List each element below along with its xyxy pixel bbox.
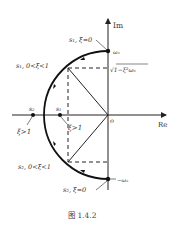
label-damped-freq: √1−ξ²ωₙ [110, 66, 136, 74]
real-axis-label: Re [158, 121, 167, 129]
leader-s1-zeta0 [96, 40, 107, 50]
figure-caption: 图 1.4.2 [68, 211, 97, 220]
label-s1-underdamped: s₁, 0<ξ<1 [16, 62, 49, 70]
point-s2-real [31, 113, 35, 117]
leader-s2-real [27, 117, 32, 125]
point-s1-real [58, 113, 62, 117]
origin-label: o [110, 117, 114, 125]
label-s1-zeta0: s₁, ξ=0 [69, 36, 92, 44]
root-locus-diagram: Im Re o s₁, ξ=0 ωₙ √1−ξ²ωₙ s₁, 0<ξ<1 s₂ … [0, 0, 182, 232]
leader-s2-zeta0 [96, 181, 107, 190]
label-overdamped-left: ξ>1 [17, 128, 31, 136]
label-neg-omega-n: −ωₙ [117, 177, 128, 183]
point-neg-omega-n [106, 177, 110, 181]
radius-lower [68, 115, 108, 162]
label-omega-n: ωₙ [113, 49, 120, 55]
label-overdamped-right: ξ>1 [68, 124, 82, 132]
label-s1-real: s₁ [56, 105, 61, 112]
leader-s1-real [61, 117, 67, 124]
label-s2-zeta0: s₂, ξ=0 [63, 186, 86, 194]
radius-upper [68, 68, 108, 115]
label-s2-real: s₂ [29, 105, 35, 112]
arc-arrow-lower [53, 141, 56, 146]
label-s2-underdamped: s₂, 0<ξ<1 [18, 163, 51, 171]
arc-arrow-upper-2 [53, 84, 56, 89]
imag-axis-label: Im [113, 21, 123, 30]
